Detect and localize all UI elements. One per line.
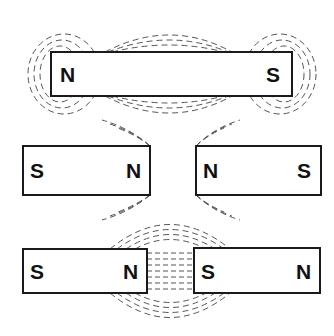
- middle-right-magnet-left-pole: N: [203, 159, 218, 182]
- bottom-right-magnet-left-pole: S: [201, 260, 215, 283]
- middle-left-magnet-right-pole: N: [126, 159, 141, 182]
- top-magnet-left-pole: N: [60, 63, 75, 86]
- bottom-left-magnet-right-pole: N: [123, 260, 138, 283]
- top-magnet: [51, 52, 292, 96]
- middle-right-magnet-right-pole: S: [297, 159, 311, 182]
- bottom-right-magnet-right-pole: N: [296, 260, 311, 283]
- middle-left-magnet-left-pole: S: [30, 159, 44, 182]
- bottom-left-magnet-left-pole: S: [30, 260, 44, 283]
- magnet-field-diagram: N S S N N S: [0, 0, 334, 336]
- top-magnet-right-pole: S: [266, 63, 280, 86]
